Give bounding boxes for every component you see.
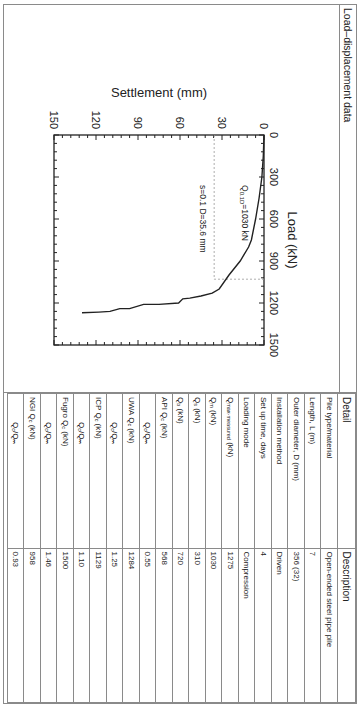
y-tick-label: 30 [216, 117, 228, 129]
q01d-annotation: Q0.1D=1030 kN [239, 185, 250, 241]
table-row: NGI Qc (kN)958 [24, 394, 41, 703]
description-cell: Open-ended steel pipe pile [321, 548, 338, 703]
detail-unit: /Qₘ [143, 431, 152, 444]
document-page: Load–displacement data 03006009001200150… [0, 0, 360, 708]
description-cell: 1.46 [41, 548, 58, 703]
description-cell: 1129 [90, 548, 107, 703]
description-cell: 568 [156, 548, 173, 703]
detail-cell: Qmax-measured (kN) [222, 394, 239, 549]
column-header-description: Description [338, 548, 356, 703]
column-header-detail: Detail [338, 394, 356, 549]
detail-cell: Length, L (m) [305, 394, 322, 549]
table-row: Qmax-measured (kN)1275 [222, 394, 239, 703]
description-cell: 356 (32) [288, 548, 305, 703]
load-settlement-chart: 0300600900120015000306090120150Load (kN)… [3, 5, 339, 391]
description-cell: 310 [189, 548, 206, 703]
table-header-row: Detail Description [338, 394, 356, 703]
detail-cell: Pile type/material [321, 394, 338, 549]
detail-cell: Qb (kN) [173, 394, 190, 549]
table-row: Installation methodDriven [272, 394, 289, 703]
table-row: Qc/Qₘ1.46 [41, 394, 58, 703]
table-row: Pile type/materialOpen-ended steel pipe … [321, 394, 338, 703]
description-cell: 0.55 [140, 548, 157, 703]
detail-label: Outer diameter, D (mm) [292, 397, 301, 481]
detail-cell: Qc/Qₘ [8, 394, 25, 549]
description-cell: 4 [255, 548, 272, 703]
detail-label: NGI Q [28, 397, 37, 420]
description-cell: 1500 [57, 548, 74, 703]
detail-label: Installation method [275, 397, 284, 464]
description-cell: Compression [239, 548, 256, 703]
detail-cell: Installation method [272, 394, 289, 549]
x-tick-label: 600 [268, 210, 280, 228]
description-cell: 1284 [123, 548, 140, 703]
table-row: Fugro Qc (kN)1500 [57, 394, 74, 703]
detail-cell: Qc/Qₘ [140, 394, 157, 549]
detail-unit: (kN) [61, 429, 70, 446]
load-settlement-curve [82, 135, 264, 313]
table-row: Length, L (m)7 [305, 394, 322, 703]
x-tick-label: 0 [268, 132, 280, 138]
description-cell: 1.25 [107, 548, 124, 703]
y-tick-label: 120 [90, 111, 102, 129]
detail-cell: Outer diameter, D (mm) [288, 394, 305, 549]
y-tick-label: 0 [258, 123, 270, 129]
detail-label: ICP Q [94, 397, 103, 419]
pile-details-table: Detail Description Pile type/materialOpe… [4, 393, 356, 703]
description-cell: 7 [305, 548, 322, 703]
table-row: Qs (kN)310 [189, 394, 206, 703]
detail-unit: (kN) [226, 440, 235, 457]
table-row: Qc/Qₘ1.25 [107, 394, 124, 703]
table-frame: Load–displacement data 03006009001200150… [3, 4, 357, 704]
detail-label: Pile type/material [325, 397, 334, 458]
table-row: Qm (kN)1030 [206, 394, 223, 703]
x-tick-label: 900 [268, 252, 280, 270]
description-cell: 958 [24, 548, 41, 703]
description-cell: 0.93 [8, 548, 25, 703]
detail-unit: (kN) [94, 421, 103, 438]
settlement-criterion-annotation: s=0.1 D=35.6 mm [198, 185, 208, 253]
detail-label: Loading mode [242, 397, 251, 448]
detail-label: Length, L (m) [308, 397, 317, 444]
detail-cell: Qs (kN) [189, 394, 206, 549]
detail-cell: UWA Qc (kN) [123, 394, 140, 549]
detail-cell: Fugro Qc (kN) [57, 394, 74, 549]
y-axis-label: Settlement (mm) [111, 85, 207, 100]
detail-unit: (kN) [209, 408, 218, 425]
description-cell: 720 [173, 548, 190, 703]
detail-subscript: max-measured [226, 403, 232, 440]
detail-cell: NGI Qc (kN) [24, 394, 41, 549]
table-row: Qc/Qₘ0.55 [140, 394, 157, 703]
plot-frame [54, 135, 264, 345]
detail-label: UWA Q [127, 397, 136, 423]
description-cell: 1.10 [74, 548, 91, 703]
load-displacement-panel: Load–displacement data 03006009001200150… [4, 5, 356, 393]
table-row: Qb (kN)720 [173, 394, 190, 703]
description-cell: 1275 [222, 548, 239, 703]
detail-label: Fugro Q [61, 397, 70, 426]
detail-unit: /Qₘ [77, 431, 86, 444]
x-axis-label: Load (kN) [285, 211, 300, 268]
detail-cell: Set up time, days [255, 394, 272, 549]
detail-cell: Qc/Qₘ [74, 394, 91, 549]
detail-label: Set up time, days [259, 397, 268, 459]
table-row: Qc/Qₘ0.93 [8, 394, 25, 703]
x-tick-label: 1500 [268, 333, 280, 357]
table-row: Loading modeCompression [239, 394, 256, 703]
x-tick-label: 300 [268, 168, 280, 186]
detail-unit: /Qₘ [44, 431, 53, 444]
detail-cell: ICP Qc (kN) [90, 394, 107, 549]
y-tick-label: 60 [174, 117, 186, 129]
table-row: UWA Qc (kN)1284 [123, 394, 140, 703]
y-tick-label: 90 [132, 117, 144, 129]
detail-cell: Qm (kN) [206, 394, 223, 549]
description-cell: 1030 [206, 548, 223, 703]
detail-unit: (kN) [127, 426, 136, 443]
detail-cell: Qc/Qₘ [107, 394, 124, 549]
panel-title: Load–displacement data [339, 5, 356, 392]
detail-unit: (kN) [28, 422, 37, 439]
detail-unit: /Qₘ [11, 431, 20, 444]
detail-cell: API Qc (kN) [156, 394, 173, 549]
detail-cell: Loading mode [239, 394, 256, 549]
table-row: Outer diameter, D (mm)356 (32) [288, 394, 305, 703]
